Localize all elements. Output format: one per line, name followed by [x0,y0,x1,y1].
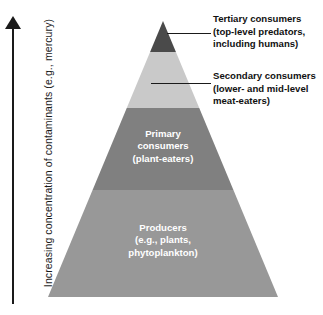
biomagnification-diagram: Increasing concentration of contaminants… [0,0,323,315]
callout-secondary-line2: (lower- and mid-level [213,83,316,96]
leader-line-secondary [151,83,211,84]
callout-tertiary: Tertiary consumers (top-level predators,… [213,13,305,51]
callout-secondary-line3: meat-eaters) [213,95,316,108]
leader-line-tertiary [167,33,211,34]
tier-band-primary [40,108,290,190]
callout-tertiary-line2: (top-level predators, [213,26,305,39]
callout-tertiary-line1: Tertiary consumers [213,13,305,26]
tier-band-producers [40,190,290,300]
callout-secondary: Secondary consumers (lower- and mid-leve… [213,70,316,108]
callout-tertiary-line3: including humans) [213,38,305,51]
callout-secondary-line1: Secondary consumers [213,70,316,83]
